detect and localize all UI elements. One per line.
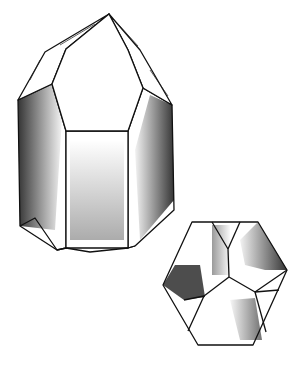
hexagonal-cross-section (163, 222, 287, 345)
quartz-illustration (0, 0, 303, 368)
crystal-prism (18, 14, 174, 252)
